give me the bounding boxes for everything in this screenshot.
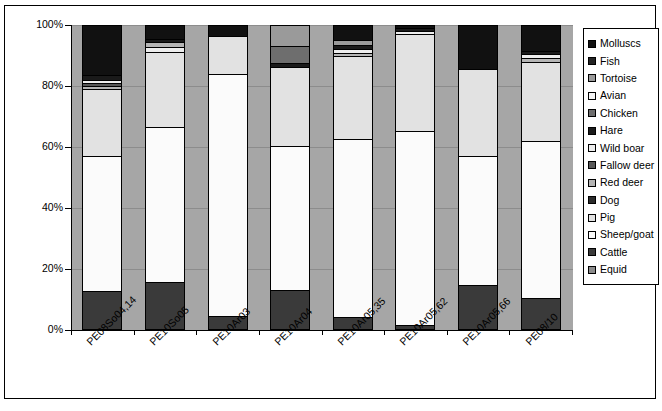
legend-item-red-deer[interactable]: Red deer: [588, 174, 655, 191]
bar-segment-red-deer[interactable]: [521, 58, 561, 62]
bar-PE10Ar03[interactable]: [208, 25, 248, 330]
bar-segment-cattle[interactable]: [270, 290, 310, 330]
bar-segment-pig[interactable]: [145, 52, 185, 127]
bar-segment-cattle[interactable]: [333, 317, 373, 330]
legend-swatch-icon: [588, 57, 596, 65]
legend-item-fallow-deer[interactable]: Fallow deer: [588, 157, 655, 174]
bar-segment-wild-boar[interactable]: [521, 54, 561, 58]
bar-segment-fallow-deer[interactable]: [82, 83, 122, 85]
legend-swatch-icon: [588, 231, 596, 239]
legend-label: Cattle: [600, 247, 627, 258]
bar-PE08/10[interactable]: [521, 25, 561, 330]
bar-segment-cattle[interactable]: [395, 325, 435, 330]
bar-segment-cattle[interactable]: [458, 285, 498, 330]
bar-PE10Ar04[interactable]: [270, 25, 310, 330]
bar-segment-pig[interactable]: [208, 36, 248, 74]
bar-segment-tortoise[interactable]: [270, 25, 310, 46]
bar-segment-sheep-goat[interactable]: [333, 139, 373, 317]
bar-PE10Ar05,66[interactable]: [458, 25, 498, 330]
legend-label: Equid: [600, 264, 627, 275]
legend-swatch-icon: [588, 214, 596, 222]
bar-segment-wild-boar[interactable]: [395, 31, 435, 33]
legend-item-equid[interactable]: Equid: [588, 261, 655, 278]
legend-item-cattle[interactable]: Cattle: [588, 244, 655, 261]
bar-PE10So05[interactable]: [145, 25, 185, 330]
bar-segment-molluscs[interactable]: [208, 25, 248, 36]
bar-segment-sheep-goat[interactable]: [145, 127, 185, 282]
legend-swatch-icon: [588, 248, 596, 256]
legend-label: Molluscs: [600, 38, 641, 49]
bar-segment-cattle[interactable]: [82, 291, 122, 330]
bar-segment-chicken[interactable]: [270, 46, 310, 63]
bar-segment-hare[interactable]: [270, 63, 310, 67]
bar-segment-pig[interactable]: [333, 56, 373, 139]
bar-segment-tortoise[interactable]: [333, 40, 373, 45]
bar-segment-molluscs[interactable]: [458, 25, 498, 69]
bar-segment-sheep-goat[interactable]: [208, 74, 248, 316]
bars-container: [71, 25, 572, 330]
bar-segment-sheep-goat[interactable]: [521, 141, 561, 298]
bar-segment-hare[interactable]: [333, 45, 373, 49]
legend-swatch-icon: [588, 74, 596, 82]
legend-swatch-icon: [588, 109, 596, 117]
bar-segment-pig[interactable]: [521, 62, 561, 141]
bar-segment-red-deer[interactable]: [82, 86, 122, 89]
bar-PE08So04,14[interactable]: [82, 25, 122, 330]
legend-label: Chicken: [600, 108, 638, 119]
bar-segment-wild-boar[interactable]: [333, 49, 373, 53]
legend: MolluscsFishTortoiseAvianChickenHareWild…: [583, 28, 659, 285]
legend-item-molluscs[interactable]: Molluscs: [588, 35, 655, 52]
bar-segment-pig[interactable]: [82, 89, 122, 156]
bar-segment-sheep-goat[interactable]: [270, 146, 310, 290]
bar-segment-red-deer[interactable]: [333, 53, 373, 56]
bar-segment-cattle[interactable]: [145, 282, 185, 330]
legend-item-wild-boar[interactable]: Wild boar: [588, 139, 655, 156]
legend-swatch-icon: [588, 266, 596, 274]
y-axis-label: 20%: [13, 263, 63, 273]
legend-item-tortoise[interactable]: Tortoise: [588, 70, 655, 87]
bar-segment-red-deer[interactable]: [145, 42, 185, 46]
legend-label: Red deer: [600, 177, 643, 188]
y-axis-label: 40%: [13, 202, 63, 212]
bar-segment-molluscs[interactable]: [395, 25, 435, 28]
chart-root: 0%20%40%60%80%100% PE08So04,14PE10So05PE…: [0, 0, 662, 411]
bar-segment-pig[interactable]: [458, 69, 498, 156]
y-axis-label: 0%: [13, 324, 63, 334]
y-axis: 0%20%40%60%80%100%: [5, 6, 63, 346]
legend-swatch-icon: [588, 127, 596, 135]
legend-item-chicken[interactable]: Chicken: [588, 105, 655, 122]
legend-item-pig[interactable]: Pig: [588, 209, 655, 226]
y-axis-label: 100%: [13, 19, 63, 29]
bar-segment-molluscs[interactable]: [145, 25, 185, 39]
bar-segment-molluscs[interactable]: [82, 25, 122, 75]
legend-label: Sheep/goat: [600, 229, 654, 240]
legend-swatch-icon: [588, 161, 596, 169]
bar-segment-molluscs[interactable]: [333, 25, 373, 40]
legend-item-hare[interactable]: Hare: [588, 122, 655, 139]
bar-PE10Ar05,62[interactable]: [395, 25, 435, 330]
bar-segment-wild-boar[interactable]: [145, 47, 185, 52]
bar-segment-wild-boar[interactable]: [82, 80, 122, 84]
bar-segment-hare[interactable]: [82, 75, 122, 80]
bar-segment-pig[interactable]: [395, 34, 435, 132]
legend-item-dog[interactable]: Dog: [588, 192, 655, 209]
y-axis-label: 80%: [13, 80, 63, 90]
bar-segment-hare[interactable]: [145, 39, 185, 43]
legend-item-avian[interactable]: Avian: [588, 87, 655, 104]
bar-segment-sheep-goat[interactable]: [82, 156, 122, 291]
legend-label: Pig: [600, 212, 615, 223]
bar-PE10Ar05,35[interactable]: [333, 25, 373, 330]
bar-segment-cattle[interactable]: [208, 316, 248, 330]
bar-segment-hare[interactable]: [521, 51, 561, 54]
bar-segment-sheep-goat[interactable]: [458, 156, 498, 286]
legend-label: Avian: [600, 90, 626, 101]
bar-segment-molluscs[interactable]: [521, 25, 561, 51]
bar-segment-hare[interactable]: [395, 28, 435, 31]
legend-label: Tortoise: [600, 73, 637, 84]
bar-segment-cattle[interactable]: [521, 298, 561, 330]
legend-item-sheep-goat[interactable]: Sheep/goat: [588, 226, 655, 243]
legend-item-fish[interactable]: Fish: [588, 52, 655, 69]
bar-segment-sheep-goat[interactable]: [395, 131, 435, 325]
bar-segment-pig[interactable]: [270, 67, 310, 146]
legend-swatch-icon: [588, 179, 596, 187]
